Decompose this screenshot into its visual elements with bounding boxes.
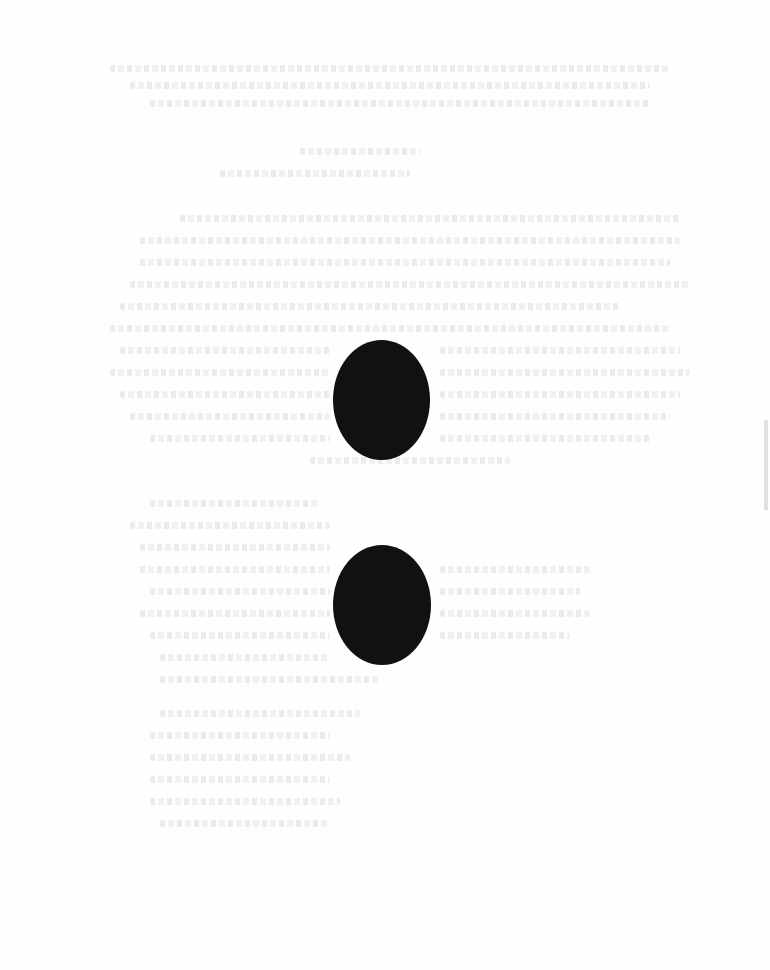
faded-text-line [120,303,620,310]
faded-text-line [160,820,330,827]
faded-text-line [140,610,330,617]
faded-text-line [120,347,330,354]
faded-text-line [150,798,340,805]
faded-text-line [440,347,680,354]
faded-text-line [140,544,330,551]
faded-text-line [120,391,330,398]
faded-text-line [440,413,670,420]
faded-text-line [130,522,330,529]
faded-text-line [150,100,650,107]
faded-text-line [110,65,670,72]
faded-text-line [150,754,350,761]
scanned-page [0,0,770,970]
oval-top-black-oval [333,340,430,460]
faded-text-line [300,148,420,155]
faded-text-line [110,369,330,376]
faded-text-line [150,632,330,639]
faded-text-line [150,588,330,595]
faded-text-line [110,325,670,332]
faded-text-line [440,391,680,398]
faded-text-line [140,566,330,573]
faded-text-line [140,237,680,244]
scan-edge-mark [764,420,768,510]
faded-text-line [440,435,650,442]
faded-text-line [150,732,330,739]
faded-text-line [130,413,330,420]
faded-text-line [150,500,320,507]
faded-text-line [160,654,330,661]
faded-text-line [310,457,510,464]
faded-text-line [150,435,330,442]
faded-text-line [160,710,360,717]
faded-text-line [150,776,330,783]
faded-text-line [440,369,690,376]
faded-text-line [160,676,380,683]
faded-text-line [130,82,650,89]
faded-text-line [140,259,670,266]
faded-text-line [440,610,590,617]
faded-text-line [440,632,570,639]
faded-text-line [440,588,580,595]
oval-bottom-black-oval [333,545,431,665]
faded-text-line [130,281,690,288]
faded-text-line [180,215,680,222]
faded-text-line [220,170,410,177]
faded-text-line [440,566,590,573]
